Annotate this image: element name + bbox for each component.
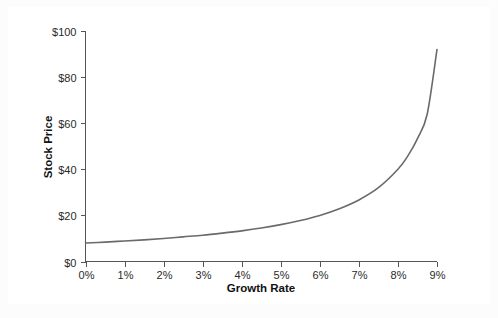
x-tick-label: 5%	[274, 269, 290, 281]
x-tick-label: 3%	[196, 269, 212, 281]
y-tick-label: $60	[58, 118, 76, 130]
y-tick-label: $0	[64, 257, 76, 269]
x-axis-ticks	[87, 262, 438, 267]
x-tick-label: 9%	[430, 269, 446, 281]
y-axis-title: Stock Price	[42, 116, 54, 179]
x-axis-title: Growth Rate	[227, 282, 295, 294]
y-tick-label: $40	[58, 164, 76, 176]
y-tick-label: $100	[52, 26, 76, 38]
x-tick-label: 6%	[313, 269, 329, 281]
x-tick-label: 1%	[118, 269, 134, 281]
y-tick-label: $20	[58, 210, 76, 222]
y-tick-label: $80	[58, 72, 76, 84]
stock-price-curve	[86, 49, 438, 243]
x-tick-label: 8%	[391, 269, 407, 281]
stock-price-vs-growth-rate-chart: $0$20$40$60$80$100 0%1%2%3%4%5%6%7%8%9% …	[0, 0, 498, 318]
x-axis-tick-labels: 0%1%2%3%4%5%6%7%8%9%	[79, 269, 446, 281]
chart-figure: $0$20$40$60$80$100 0%1%2%3%4%5%6%7%8%9% …	[0, 0, 498, 318]
y-axis-ticks	[81, 32, 86, 263]
y-axis-tick-labels: $0$20$40$60$80$100	[52, 26, 76, 269]
x-tick-label: 2%	[157, 269, 173, 281]
x-tick-label: 4%	[235, 269, 251, 281]
x-tick-label: 0%	[79, 269, 95, 281]
x-tick-label: 7%	[352, 269, 368, 281]
